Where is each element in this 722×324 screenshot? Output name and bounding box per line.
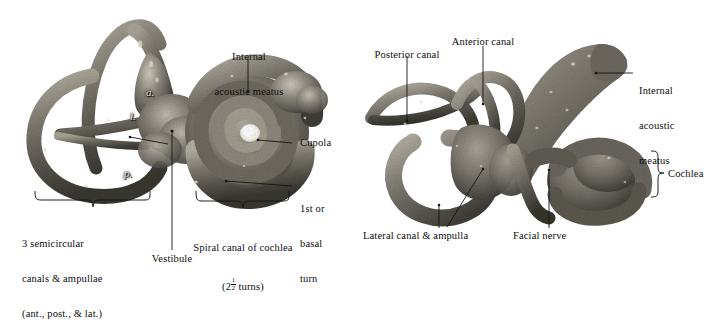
label-cupola: Cupola xyxy=(300,137,358,149)
label-spiral-canal: Spiral canal of cochlea (212 turns) xyxy=(183,219,303,316)
label-line-3: turn xyxy=(300,273,358,285)
label-line-2: acoustic xyxy=(639,120,721,132)
spiral-turns-prefix: (2 xyxy=(222,281,231,292)
label-cochlea: Cochlea xyxy=(668,168,722,180)
label-facial-nerve: Facial nerve xyxy=(513,230,613,242)
specimen-letter-anterior: a. xyxy=(146,86,154,98)
specimen-letter-lateral: l. xyxy=(130,110,136,122)
specimen-letter-posterior: p. xyxy=(124,167,132,179)
label-line-1: 1st or xyxy=(300,203,358,215)
label-vestibule: Vestibule xyxy=(132,253,212,265)
label-semicircular-canals: 3 semicircular canals & ampullae (ant., … xyxy=(22,215,172,324)
label-internal-acoustic-meatus-left: Internal acoustic meatus xyxy=(188,28,310,121)
label-posterior-canal: Posterior canal xyxy=(357,49,457,61)
label-anterior-canal: Anterior canal xyxy=(433,36,533,48)
label-basal-turn: 1st or basal turn xyxy=(300,180,358,308)
label-line-3: meatus xyxy=(639,155,721,167)
label-line-2: canals & ampullae xyxy=(22,273,172,285)
label-lateral-canal-ampulla: Lateral canal & ampulla xyxy=(363,230,533,242)
panel-right: Posterior canal Anterior canal Internal … xyxy=(361,0,722,275)
label-line-2: basal xyxy=(300,238,358,250)
panel-left: a. l. p. Internal acoustic meatus Cupola… xyxy=(0,0,361,275)
spiral-turns-suffix: turns) xyxy=(236,281,264,292)
label-line-3: (ant., post., & lat.) xyxy=(22,308,172,320)
label-line-1: Internal xyxy=(188,51,310,63)
label-line-1: 3 semicircular xyxy=(22,238,172,250)
label-line-1: Internal xyxy=(639,85,721,97)
label-line-2: (212 turns) xyxy=(183,277,303,293)
label-line-2: acoustic meatus xyxy=(188,86,310,98)
